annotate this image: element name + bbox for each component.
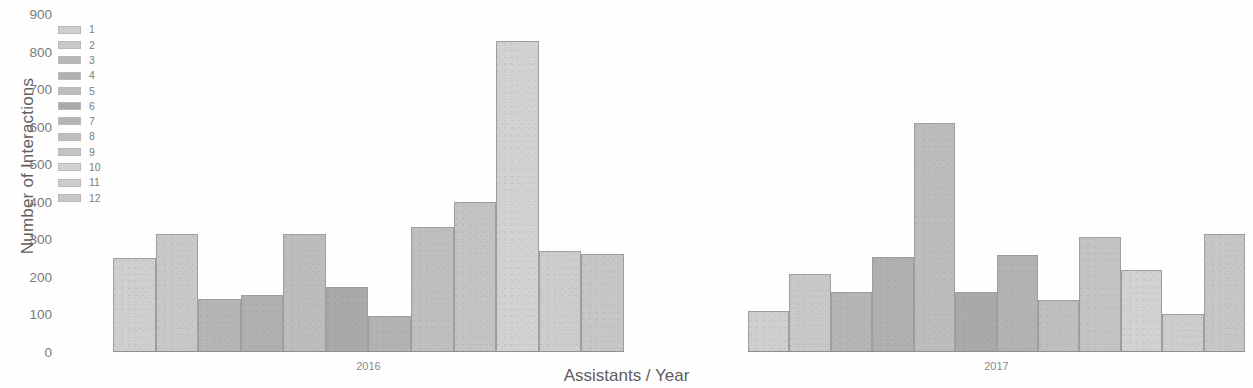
x-axis-title: Assistants / Year	[0, 366, 1253, 386]
axis-baseline	[113, 351, 624, 352]
bar[interactable]	[581, 254, 624, 352]
bar[interactable]	[789, 274, 830, 352]
bar[interactable]	[539, 251, 582, 352]
bar[interactable]	[1038, 300, 1079, 352]
bar-group: 2017	[748, 14, 1245, 352]
bar[interactable]	[283, 234, 326, 352]
bar[interactable]	[997, 255, 1038, 352]
bar[interactable]	[1204, 234, 1245, 352]
bar[interactable]	[831, 292, 872, 352]
bar[interactable]	[326, 287, 369, 352]
bar-group-bars	[748, 14, 1245, 352]
bar[interactable]	[955, 292, 996, 352]
bar[interactable]	[368, 316, 411, 352]
bar[interactable]	[1079, 237, 1120, 352]
bar[interactable]	[872, 257, 913, 352]
bar[interactable]	[198, 299, 241, 352]
bar[interactable]	[1121, 270, 1162, 352]
bar[interactable]	[113, 258, 156, 352]
plot-area: 20162017	[0, 0, 1253, 388]
bar[interactable]	[241, 295, 284, 352]
bar[interactable]	[454, 202, 497, 352]
bar[interactable]	[1162, 314, 1203, 352]
bar[interactable]	[914, 123, 955, 352]
bar[interactable]	[496, 41, 539, 352]
axis-baseline	[748, 351, 1245, 352]
bar[interactable]	[156, 234, 199, 352]
bar-chart-figure: Number of Interactions 90080070060050040…	[0, 0, 1253, 388]
bar[interactable]	[748, 311, 789, 352]
bar[interactable]	[411, 227, 454, 352]
bar-group-bars	[113, 14, 624, 352]
bar-group: 2016	[113, 14, 624, 352]
